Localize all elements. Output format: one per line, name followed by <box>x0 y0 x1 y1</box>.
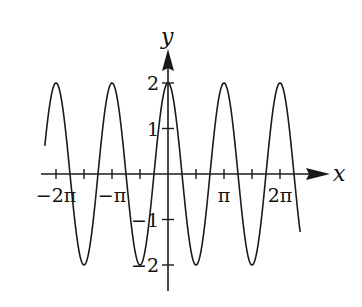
x-tick-label: π <box>218 184 231 206</box>
x-tick-label: 2π <box>268 184 293 206</box>
x-axis: x <box>41 161 346 186</box>
chart: x y −2π−ππ2π21−1−2 <box>0 0 362 307</box>
x-axis-arrow-icon <box>306 168 330 180</box>
y-axis-arrow-icon <box>162 49 174 71</box>
y-tick-label: −1 <box>131 209 159 231</box>
y-tick-label: 2 <box>147 72 159 94</box>
x-tick-label: −π <box>98 184 126 206</box>
x-tick-label: −2π <box>36 184 77 206</box>
y-tick-label: −2 <box>131 254 159 276</box>
y-axis: y <box>160 24 174 291</box>
y-axis-label: y <box>160 24 174 49</box>
x-axis-label: x <box>333 161 346 186</box>
